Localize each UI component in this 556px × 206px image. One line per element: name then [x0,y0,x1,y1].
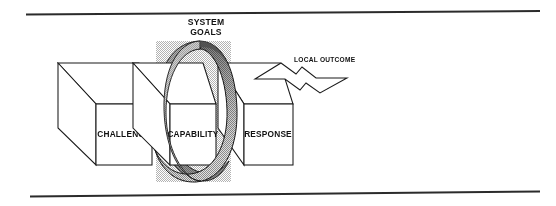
bottom-rule [30,192,540,197]
response-box-label: RESPONSE [244,129,292,139]
system-goals-line2: GOALS [190,27,222,37]
system-goals-line1: SYSTEM [188,17,225,27]
top-rule [26,11,540,15]
diagram-canvas: SYSTEM GOALS CHALLENGE CAPABILITY [0,0,556,206]
local-outcome-label: LOCAL OUTCOME [294,56,356,63]
capability-box-label: CAPABILITY [167,129,218,139]
figure-root: SYSTEM GOALS CHALLENGE CAPABILITY [0,0,556,206]
